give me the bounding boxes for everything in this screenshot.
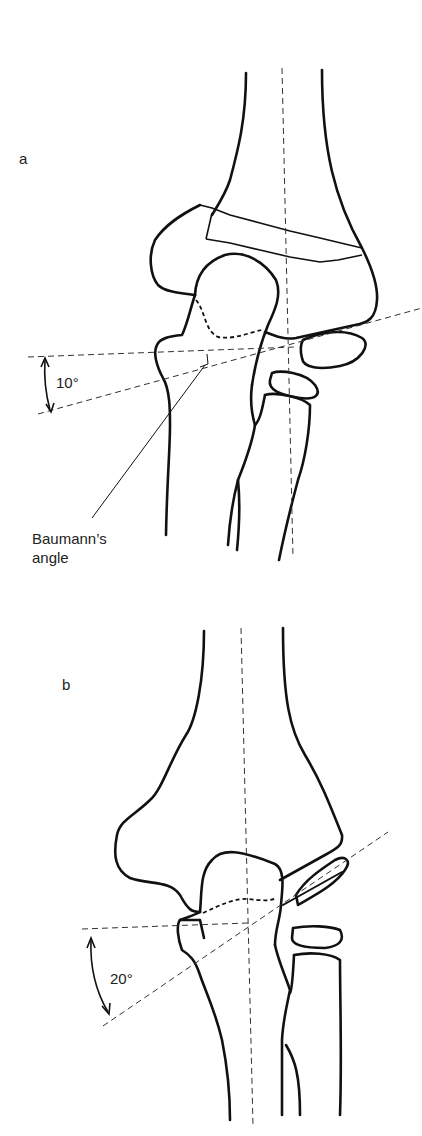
capitellum-dashed bbox=[203, 898, 276, 913]
radial-head bbox=[292, 926, 342, 948]
humerus-shaft-left-outline bbox=[115, 631, 204, 912]
physeal-line bbox=[38, 308, 422, 414]
radius-shaft-left bbox=[255, 395, 265, 425]
baumanns-angle-label-line2: angle bbox=[32, 549, 69, 567]
humerus-shaft-right-outline bbox=[265, 70, 377, 339]
panel-b-angle-label: 20° bbox=[110, 970, 133, 988]
angle-arc-arrow bbox=[45, 360, 50, 410]
radial-epiphysis bbox=[301, 332, 366, 368]
ulna-inner bbox=[275, 945, 290, 1115]
capitellum-dashed bbox=[196, 300, 262, 338]
ulna-inner-2 bbox=[237, 480, 239, 550]
right-angle-mark bbox=[200, 354, 208, 367]
ulna-inner bbox=[228, 385, 255, 545]
humerus-shaft-left-outline bbox=[212, 73, 246, 215]
capitellum bbox=[195, 254, 278, 385]
panel-b-drawing bbox=[0, 570, 422, 1136]
lateral-epicondyle bbox=[151, 205, 200, 295]
humeral-axis-line bbox=[282, 68, 293, 558]
horizontal-reference-line bbox=[28, 347, 295, 357]
radius-shaft-left bbox=[290, 955, 294, 993]
radius-shaft bbox=[294, 953, 341, 1115]
humeral-axis-line bbox=[241, 628, 253, 1125]
annotation-leader-line bbox=[92, 365, 205, 518]
radial-epiphysis bbox=[296, 858, 348, 905]
humerus-shaft-right-outline bbox=[280, 628, 342, 880]
physeal-line bbox=[103, 832, 388, 1026]
angle-arc-arrow bbox=[91, 940, 108, 1012]
radius-shaft bbox=[265, 394, 310, 560]
ulna-inner-2 bbox=[286, 1045, 300, 1115]
panel-a-label: a bbox=[19, 150, 27, 168]
capitellum bbox=[200, 852, 283, 945]
baumanns-angle-label-line1: Baumann’s bbox=[32, 530, 107, 548]
coronoid-notch bbox=[180, 920, 204, 938]
horizontal-reference-line bbox=[82, 923, 248, 929]
ulna-outline bbox=[155, 295, 195, 535]
fracture-vertical bbox=[206, 213, 212, 239]
panel-a-angle-label: 10° bbox=[56, 374, 79, 392]
panel-b-label: b bbox=[62, 676, 70, 694]
ulna-outline bbox=[178, 912, 230, 1120]
panel-a-drawing bbox=[0, 0, 422, 570]
